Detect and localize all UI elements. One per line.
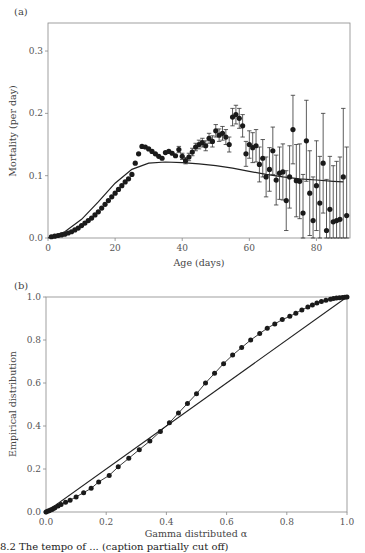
data-point: [264, 174, 269, 179]
data-point: [327, 207, 332, 212]
data-point: [167, 420, 172, 425]
panel-a-data-points: [49, 95, 349, 239]
data-point: [126, 456, 131, 461]
data-point: [116, 464, 121, 469]
panel-b-y-label: Empirical distribution: [7, 351, 18, 457]
data-point: [307, 191, 312, 196]
data-point: [287, 174, 292, 179]
panel-a-fit-line: [48, 162, 343, 238]
y-tick-label: 0.2: [27, 464, 41, 474]
data-point: [137, 447, 142, 452]
data-point: [257, 162, 262, 167]
data-point: [59, 502, 64, 507]
panel-a-frame: [48, 23, 350, 238]
data-point: [270, 148, 275, 153]
data-point: [337, 217, 342, 222]
panel-a-label: (a): [14, 6, 28, 17]
data-point: [107, 473, 112, 478]
data-point: [190, 149, 195, 154]
y-tick-label: 0.3: [29, 46, 44, 56]
x-tick-label: 0.4: [159, 517, 174, 527]
data-point: [341, 174, 346, 179]
x-tick-label: 60: [244, 243, 256, 253]
data-point: [203, 381, 208, 386]
data-point: [159, 156, 164, 161]
y-tick-label: 0.8: [27, 335, 42, 345]
data-point: [267, 167, 272, 172]
data-point: [136, 151, 141, 156]
data-point: [173, 153, 178, 158]
data-point: [310, 302, 315, 307]
x-tick-label: 0.0: [39, 517, 54, 527]
data-point: [280, 169, 285, 174]
data-point: [293, 311, 298, 316]
y-tick-label: 0.0: [27, 507, 42, 517]
data-point: [237, 116, 242, 121]
panel-a-x-label: Age (days): [173, 257, 225, 268]
x-tick-label: 0.6: [219, 517, 234, 527]
data-point: [299, 307, 304, 312]
data-point: [297, 179, 302, 184]
panel-b-y-axis: 0.00.20.40.60.81.0: [27, 292, 46, 517]
y-tick-label: 0.2: [29, 108, 43, 118]
data-point: [63, 500, 68, 505]
figure-caption: 8.2 The tempo of ... (caption partially …: [0, 541, 365, 553]
x-tick-label: 80: [311, 243, 323, 253]
data-point: [133, 161, 138, 166]
panel-a-chart: (a) 0.00.10.20.3 020406080 Age (days) Mo…: [7, 6, 350, 268]
data-point: [203, 143, 208, 148]
data-point: [176, 411, 181, 416]
panel-a-y-label: Mortality (per day): [7, 85, 18, 177]
data-point: [300, 210, 305, 215]
data-point: [317, 201, 322, 206]
data-point: [272, 321, 277, 326]
panel-b-x-axis: 0.00.20.40.60.81.0: [39, 512, 355, 527]
x-tick-label: 40: [176, 243, 188, 253]
data-point: [321, 161, 326, 166]
data-point: [210, 139, 215, 144]
data-point: [158, 429, 163, 434]
identity-line: [46, 297, 347, 512]
x-tick-label: 0: [45, 243, 51, 253]
data-point: [96, 479, 101, 484]
panel-a-x-axis: 020406080: [45, 238, 322, 253]
data-point: [304, 138, 309, 143]
data-point: [323, 298, 328, 303]
data-point: [260, 156, 265, 161]
data-point: [186, 154, 191, 159]
data-point: [89, 486, 94, 491]
data-point: [319, 299, 324, 304]
data-point: [345, 295, 350, 300]
data-point: [185, 401, 190, 406]
data-point: [274, 177, 279, 182]
data-point: [314, 183, 319, 188]
data-point: [74, 494, 79, 499]
data-point: [194, 391, 199, 396]
data-point: [284, 198, 289, 203]
data-point: [147, 439, 152, 444]
data-point: [126, 176, 131, 181]
panel-b-chart: (b) 0.00.20.40.60.81.0 0.00.20.40.60.81.…: [7, 280, 354, 539]
data-point: [227, 142, 232, 147]
data-point: [129, 172, 134, 177]
data-point: [280, 317, 285, 322]
data-point: [344, 213, 349, 218]
data-point: [324, 228, 329, 233]
panel-b-label: (b): [14, 280, 28, 291]
y-tick-label: 1.0: [27, 292, 42, 302]
data-point: [221, 361, 226, 366]
x-tick-label: 0.2: [99, 517, 113, 527]
y-tick-label: 0.0: [29, 233, 44, 243]
data-point: [212, 371, 217, 376]
x-tick-label: 1.0: [340, 517, 355, 527]
data-point: [176, 147, 181, 152]
panel-b-x-label: Gamma distributed α: [145, 528, 248, 539]
panel-b-reference-line: [46, 297, 347, 512]
data-point: [310, 218, 315, 223]
data-point: [265, 326, 270, 331]
data-point: [81, 490, 86, 495]
data-point: [287, 314, 292, 319]
data-point: [305, 305, 310, 310]
panel-a-y-axis: 0.00.10.20.3: [29, 46, 48, 243]
